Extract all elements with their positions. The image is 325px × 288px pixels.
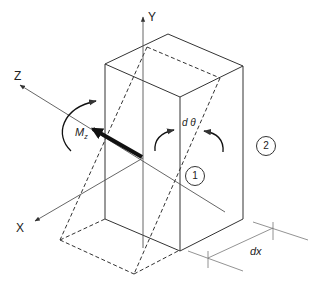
rotation-arrow-right	[204, 131, 223, 152]
dimension-extension-upper	[253, 222, 308, 240]
beam-element-diagram	[0, 0, 325, 288]
moment-symbol: M	[75, 126, 84, 138]
box-bottom-front-edge	[105, 219, 180, 251]
dx-dimension	[188, 222, 308, 271]
section-2-marker: 2	[256, 136, 276, 156]
z-axis-label: Z	[14, 70, 21, 82]
rotated-section-plane	[60, 47, 220, 274]
y-axis-label: Y	[148, 11, 156, 23]
rotation-angle-label: d θ	[182, 118, 196, 128]
z-axis	[20, 85, 225, 212]
x-axis-label: X	[16, 222, 24, 234]
coordinate-axes	[20, 17, 225, 248]
box-top-face	[105, 34, 243, 97]
dimension-line	[208, 228, 273, 258]
moment-vector-arrow	[93, 129, 142, 157]
element-length-label: dx	[250, 246, 262, 257]
dimension-extension-lower	[188, 251, 243, 271]
moment-label: Mz	[75, 127, 88, 140]
section-1-marker: 1	[185, 166, 205, 186]
rotation-arrow-left	[155, 130, 174, 151]
moment-subscript: z	[84, 133, 88, 140]
x-axis	[35, 158, 143, 221]
